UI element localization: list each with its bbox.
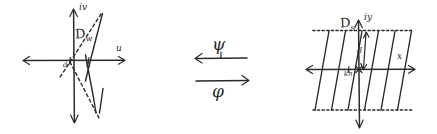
right-domain-letter: D <box>340 15 351 31</box>
right-tick-label-kh: kh <box>344 71 353 79</box>
left-vertical-axis-label: iv <box>79 3 87 12</box>
left-horizontal-axis-label: u <box>116 44 122 53</box>
left-domain-subscript: w <box>85 34 92 43</box>
right-domain-subscript: s <box>350 23 355 32</box>
dimension-d-label: d <box>357 47 362 55</box>
right-vertical-axis <box>359 21 360 127</box>
left-tick-label-d: d <box>63 62 68 69</box>
right-horizontal-axis-label: x <box>397 52 402 61</box>
left-domain-label: Dw <box>75 27 93 44</box>
right-domain-label: Ds <box>340 16 355 33</box>
right-vertical-axis-label: iy <box>364 13 372 22</box>
psi-map-label: ψ <box>212 36 225 53</box>
right-panel-group <box>306 20 415 128</box>
conformal-mapping-figure: Dw u iv d h ψ φ Ds x iy d kh <box>0 0 437 134</box>
strip-slant-line-5 <box>381 31 395 110</box>
left-short-segment <box>100 89 104 114</box>
strip-slant-line-6 <box>398 31 412 110</box>
strip-slant-line-1 <box>315 31 329 110</box>
strip-slant-line-4 <box>365 31 379 110</box>
left-domain-letter: D <box>75 26 86 42</box>
left-tick-label-h: h <box>86 62 91 69</box>
phi-map-label: φ <box>212 83 224 100</box>
